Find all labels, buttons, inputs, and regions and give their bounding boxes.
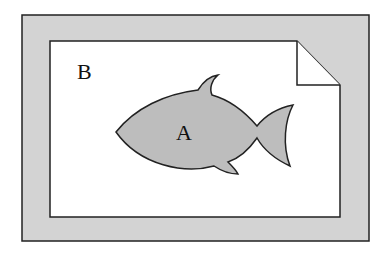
label-a: A: [176, 120, 192, 145]
diagram: B A: [0, 0, 384, 261]
label-b: B: [77, 59, 92, 84]
